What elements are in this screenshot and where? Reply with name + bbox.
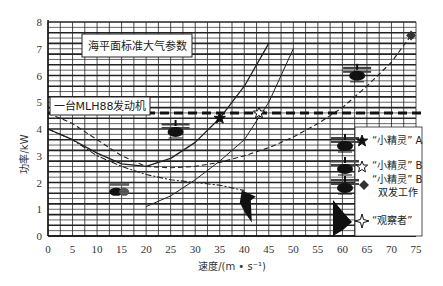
y-tick-label: 0 [37, 230, 43, 242]
x-tick-label: 55 [312, 243, 324, 255]
x-tick-label: 50 [288, 243, 300, 255]
x-tick-label: 30 [190, 243, 202, 255]
helicopter-a-icon [162, 120, 190, 138]
y-tick-label: 4 [37, 123, 43, 135]
y-tick-label: 6 [37, 70, 43, 82]
y-tick-label: 2 [37, 177, 43, 189]
x-tick-label: 40 [239, 243, 251, 255]
y-tick-label: 3 [37, 150, 43, 162]
diamond-icon [406, 30, 416, 40]
y-tick-label: 7 [37, 43, 43, 55]
y-tick-label: 5 [37, 96, 43, 108]
x-tick-label: 20 [141, 243, 153, 255]
x-tick-label: 45 [263, 243, 275, 255]
atmosphere-label: 海平面标准大气参数 [88, 39, 187, 53]
legend: “小精灵” A“小精灵” B“小精灵” B双发工作“观察者” [331, 127, 423, 236]
y-tick-label: 1 [37, 203, 43, 215]
engine-label: 一台MLH88发动机 [54, 99, 147, 113]
legend-label-b: “小精灵” B [372, 159, 423, 171]
observer-aircraft-icon [240, 191, 256, 223]
x-tick-label: 70 [386, 243, 398, 255]
x-tick-label: 35 [214, 243, 226, 255]
x-tick-label: 25 [165, 243, 177, 255]
chart-canvas: 051015202530354045505560657075012345678速… [0, 0, 443, 286]
legend-label-a: “小精灵” A [372, 134, 423, 146]
x-tick-label: 0 [45, 243, 51, 255]
open-star-icon [253, 107, 264, 118]
legend-label-b-twin-1: “小精灵” B [372, 173, 423, 185]
y-tick-label: 8 [37, 16, 43, 28]
x-axis-label: 速度/(m • s⁻¹) [198, 260, 266, 272]
x-tick-label: 5 [70, 243, 76, 255]
y-axis-label: 功率/kW [18, 134, 30, 173]
x-tick-label: 10 [92, 243, 104, 255]
legend-label-b-twin-2: 双发工作 [378, 186, 418, 198]
x-tick-label: 75 [411, 243, 423, 255]
legend-label-observer: “观察者” [372, 214, 412, 226]
x-tick-label: 15 [116, 243, 128, 255]
x-tick-label: 60 [337, 243, 349, 255]
x-tick-label: 65 [361, 243, 373, 255]
helicopter-b-icon [109, 183, 129, 196]
